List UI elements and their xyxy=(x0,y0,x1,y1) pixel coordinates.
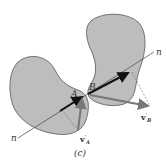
diagram-canvas: n n A B v′A v′B (c) xyxy=(0,0,166,160)
label-velocity-b: v′B xyxy=(140,112,151,123)
label-body-a: A xyxy=(70,89,78,99)
figure-caption: (c) xyxy=(74,148,87,158)
label-body-b: B xyxy=(88,82,96,92)
label-n-end: n xyxy=(156,47,162,57)
label-n-start: n xyxy=(11,133,17,143)
label-velocity-a: v′A xyxy=(79,134,90,145)
impact-diagram: n n A B v′A v′B (c) xyxy=(0,0,166,160)
